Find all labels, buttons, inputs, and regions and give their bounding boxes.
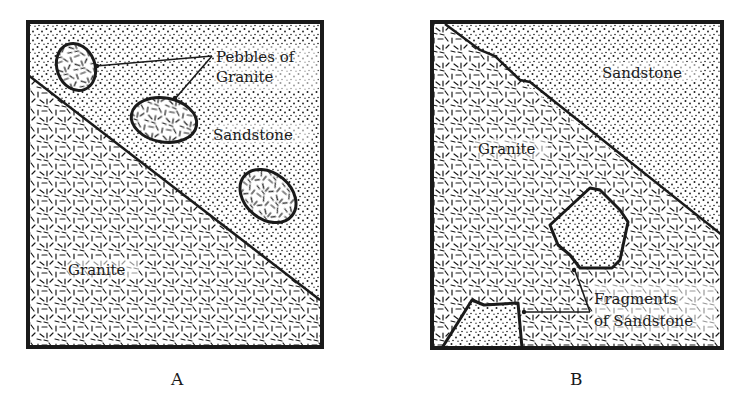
panel-b-caption: B [570, 369, 583, 389]
fragments-label-line2: of Sandstone [594, 312, 693, 330]
sandstone-label: Sandstone [213, 126, 293, 144]
granite-label: Granite [478, 140, 536, 158]
fragments-label-line1: Fragments [594, 290, 677, 308]
pebbles-label-line1: Pebbles of [216, 48, 296, 66]
panel-a: Pebbles of Granite Sandstone Granite [28, 22, 322, 347]
sandstone-label: Sandstone [602, 64, 682, 82]
pointer-tip [522, 310, 526, 314]
pebbles-label-line2: Granite [216, 68, 274, 86]
pointer-tip [572, 268, 576, 272]
granite-label: Granite [68, 261, 126, 279]
pointer-tip [173, 96, 177, 100]
geology-diagram: Pebbles of Granite Sandstone Granite A S… [0, 0, 735, 407]
pointer-tip [95, 64, 99, 68]
panel-a-caption: A [170, 369, 184, 389]
panel-b: Sandstone Granite Fragments of Sandstone [432, 22, 722, 348]
